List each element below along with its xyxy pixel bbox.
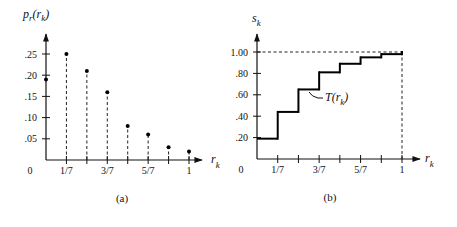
panel-a-data-point bbox=[85, 69, 89, 73]
panel-a-x-tick-label: 3/7 bbox=[101, 165, 114, 176]
panel-a-x-tick-label: 0 bbox=[28, 165, 33, 176]
panel-b-x-tick-label: 1 bbox=[400, 164, 405, 175]
panel-b-annotation: T(rk) bbox=[325, 90, 348, 107]
figure: .05.10.15.20.25 01/73/75/71 pr(rk) rk (a… bbox=[0, 0, 457, 227]
panel-b-y-tick-label: .40 bbox=[236, 111, 249, 122]
panel-a-data-point bbox=[167, 145, 171, 149]
panel-b-y-tick-label: 1.00 bbox=[231, 47, 249, 58]
panel-b-x-label: rk bbox=[425, 151, 435, 169]
panel-a-y-tick-label: .05 bbox=[25, 133, 38, 144]
panel-b-x-tick-label: 3/7 bbox=[313, 164, 326, 175]
panel-a-data-point bbox=[64, 52, 68, 56]
panel-b-x-tick-label: 0 bbox=[239, 164, 244, 175]
panel-b-y-tick-label: .60 bbox=[236, 89, 249, 100]
panel-a-y-tick-label: .20 bbox=[25, 70, 38, 81]
panel-a-x-tick-label: 1 bbox=[187, 165, 192, 176]
panel-b-y-tick-label: .80 bbox=[236, 68, 249, 79]
panel-b-x-tick-label: 5/7 bbox=[354, 164, 367, 175]
panel-b-x-tick-label: 1/7 bbox=[271, 164, 284, 175]
panel-a-y-label: pr(rk) bbox=[22, 7, 49, 23]
panel-a-y-tick-label: .15 bbox=[25, 91, 38, 102]
panel-a-x-tick-label: 5/7 bbox=[142, 165, 155, 176]
panel-b-y-label: sk bbox=[252, 11, 262, 28]
panel-a-y-tick-label: .10 bbox=[25, 112, 38, 123]
panel-a-data-point bbox=[187, 150, 191, 154]
panel-a-histogram: .05.10.15.20.25 01/73/75/71 pr(rk) rk (a… bbox=[22, 7, 221, 205]
panel-a-y-tick-label: .25 bbox=[25, 49, 38, 60]
panel-a-x-label: rk bbox=[211, 152, 221, 170]
panel-b-y-tick-label: .20 bbox=[236, 132, 249, 143]
panel-a-caption: (a) bbox=[116, 192, 129, 205]
panel-a-data-point bbox=[44, 77, 48, 81]
panel-a-data-point bbox=[146, 133, 150, 137]
panel-a-data-point bbox=[105, 90, 109, 94]
panel-b-caption: (b) bbox=[324, 191, 337, 204]
panel-b-transformation: .20.40.60.801.00 01/73/75/71 T(rk) sk rk… bbox=[231, 11, 435, 204]
panel-b-annotation-leader bbox=[309, 92, 318, 98]
panel-a-data-point bbox=[126, 124, 130, 128]
panel-a-x-tick-label: 1/7 bbox=[60, 165, 73, 176]
